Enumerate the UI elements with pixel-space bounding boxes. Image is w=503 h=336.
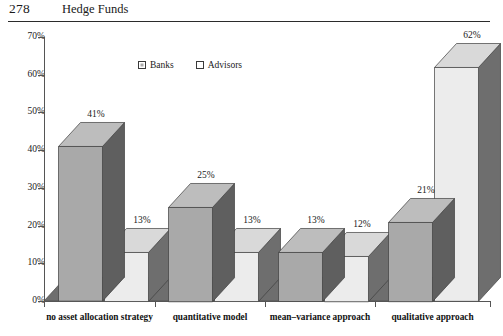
y-axis-tick: 10% bbox=[0, 263, 45, 264]
category-tick-mark bbox=[265, 301, 266, 307]
y-axis-line bbox=[44, 37, 45, 301]
category-tick-mark bbox=[375, 301, 376, 307]
bar-value-label: 13% bbox=[294, 215, 338, 225]
bar-value-label: 13% bbox=[120, 215, 164, 225]
y-axis-tick: 40% bbox=[0, 150, 45, 151]
page-header: 278 Hedge Funds bbox=[0, 0, 498, 24]
y-axis-tick: 0% bbox=[0, 301, 45, 302]
bar-value-label: 12% bbox=[340, 219, 384, 229]
category-tick-mark bbox=[490, 301, 491, 307]
y-axis-tick: 20% bbox=[0, 226, 45, 227]
bar-banks bbox=[58, 122, 125, 302]
bar-value-label: 13% bbox=[230, 215, 274, 225]
header-rule bbox=[8, 21, 490, 22]
bar-value-label: 21% bbox=[404, 185, 448, 195]
bar-banks bbox=[278, 228, 345, 302]
y-axis-tick: 50% bbox=[0, 112, 45, 113]
y-axis-tick: 60% bbox=[0, 75, 45, 76]
page-number: 278 bbox=[9, 1, 30, 17]
bar-value-label: 41% bbox=[74, 109, 118, 119]
bar-value-label: 62% bbox=[450, 30, 494, 40]
bar-banks bbox=[388, 198, 455, 302]
y-axis-tick: 70% bbox=[0, 37, 45, 38]
grouped-bar-chart: 0%10%20%30%40%50%60%70% 13%41%13%25%12%1… bbox=[0, 24, 498, 336]
bar-value-label: 25% bbox=[184, 170, 228, 180]
legend-entry-advisors: Advisors bbox=[196, 60, 242, 70]
category-tick-mark bbox=[44, 301, 45, 307]
running-head: Hedge Funds bbox=[62, 2, 128, 17]
category-label: qualitative approach bbox=[363, 312, 503, 322]
bar-banks bbox=[168, 183, 235, 302]
open-square-icon bbox=[196, 61, 204, 69]
legend-label-banks: Banks bbox=[150, 60, 174, 70]
chart-legend: Banks Advisors bbox=[138, 60, 242, 70]
filled-square-icon bbox=[138, 61, 146, 69]
legend-label-advisors: Advisors bbox=[208, 60, 242, 70]
category-tick-mark bbox=[155, 301, 156, 307]
y-axis-tick: 30% bbox=[0, 188, 45, 189]
legend-entry-banks: Banks bbox=[138, 60, 174, 70]
